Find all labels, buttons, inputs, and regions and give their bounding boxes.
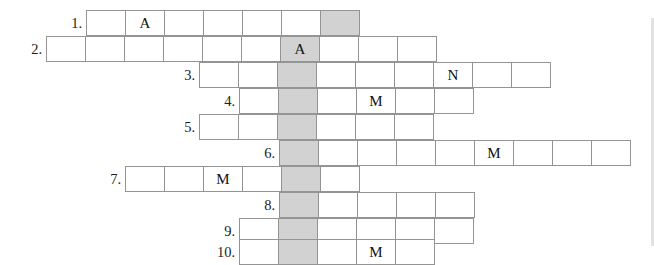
crossword-cell[interactable] — [511, 62, 551, 88]
crossword-cell[interactable] — [434, 218, 474, 244]
crossword-cell[interactable]: N — [433, 62, 473, 88]
clue-number: 1. — [71, 10, 87, 36]
crossword-cell[interactable] — [203, 10, 243, 36]
crossword-puzzle: 1.A2.A3.N4.M5.6.M7.M8.9.10.M — [0, 0, 654, 265]
crossword-cell[interactable] — [164, 166, 204, 192]
crossword-cell[interactable] — [317, 239, 357, 265]
crossword-cell[interactable] — [394, 114, 434, 140]
crossword-cell[interactable] — [435, 192, 475, 218]
crossword-cell[interactable] — [319, 36, 359, 62]
crossword-cell[interactable] — [281, 10, 321, 36]
crossword-cell-shaded[interactable] — [278, 239, 318, 265]
crossword-cell[interactable] — [513, 140, 553, 166]
crossword-cell[interactable] — [199, 62, 239, 88]
crossword-cell[interactable] — [357, 140, 397, 166]
clue-number: 7. — [110, 166, 126, 192]
crossword-row: 1.A — [87, 10, 360, 36]
crossword-cell-shaded[interactable] — [320, 10, 360, 36]
crossword-cell-shaded[interactable] — [281, 166, 321, 192]
crossword-cell-shaded[interactable] — [279, 140, 319, 166]
crossword-cell[interactable] — [317, 88, 357, 114]
clue-number: 5. — [184, 114, 200, 140]
clue-number: 8. — [264, 192, 280, 218]
crossword-cell[interactable] — [241, 36, 281, 62]
crossword-cell[interactable] — [395, 239, 435, 265]
crossword-row: 8. — [280, 192, 475, 218]
crossword-cell[interactable] — [242, 166, 282, 192]
crossword-cell[interactable] — [85, 36, 125, 62]
crossword-cell-shaded[interactable]: A — [280, 36, 320, 62]
crossword-cell[interactable] — [395, 88, 435, 114]
crossword-row: 4.M — [240, 88, 474, 114]
crossword-cell[interactable] — [199, 114, 239, 140]
crossword-cell[interactable] — [163, 36, 203, 62]
clue-number: 4. — [224, 88, 240, 114]
crossword-cell[interactable] — [394, 62, 434, 88]
crossword-cell[interactable] — [355, 114, 395, 140]
crossword-row: 7.M — [126, 166, 360, 192]
crossword-cell[interactable] — [434, 88, 474, 114]
crossword-cell[interactable] — [318, 192, 358, 218]
crossword-cell[interactable] — [239, 239, 279, 265]
crossword-cell[interactable] — [396, 140, 436, 166]
crossword-cell[interactable] — [472, 62, 512, 88]
crossword-row: 3.N — [200, 62, 551, 88]
crossword-cell[interactable] — [318, 140, 358, 166]
crossword-cell-shaded[interactable] — [278, 88, 318, 114]
crossword-cell[interactable] — [239, 88, 279, 114]
crossword-row: 2.A — [47, 36, 437, 62]
crossword-cell[interactable] — [396, 192, 436, 218]
crossword-cell[interactable] — [591, 140, 631, 166]
crossword-cell-shaded[interactable] — [277, 114, 317, 140]
crossword-cell[interactable] — [355, 62, 395, 88]
crossword-cell[interactable] — [86, 10, 126, 36]
crossword-cell[interactable] — [552, 140, 592, 166]
crossword-cell[interactable] — [358, 36, 398, 62]
crossword-cell[interactable] — [125, 166, 165, 192]
crossword-cell[interactable] — [164, 10, 204, 36]
crossword-cell[interactable] — [238, 114, 278, 140]
crossword-cell[interactable]: A — [125, 10, 165, 36]
crossword-cell[interactable] — [238, 62, 278, 88]
crossword-cell[interactable] — [242, 10, 282, 36]
crossword-row: 5. — [200, 114, 434, 140]
clue-number: 2. — [31, 36, 47, 62]
crossword-cell[interactable] — [397, 36, 437, 62]
clue-number: 6. — [264, 140, 280, 166]
crossword-cell[interactable]: M — [356, 239, 396, 265]
crossword-cell[interactable] — [202, 36, 242, 62]
crossword-cell[interactable]: M — [474, 140, 514, 166]
clue-number: 3. — [184, 62, 200, 88]
crossword-cell[interactable]: M — [356, 88, 396, 114]
crossword-row: 10.M — [240, 239, 435, 265]
crossword-cell[interactable] — [316, 62, 356, 88]
crossword-cell[interactable] — [124, 36, 164, 62]
crossword-cell-shaded[interactable] — [279, 192, 319, 218]
crossword-cell[interactable] — [316, 114, 356, 140]
crossword-cell[interactable]: M — [203, 166, 243, 192]
clue-number: 10. — [217, 239, 240, 265]
crossword-cell[interactable] — [320, 166, 360, 192]
crossword-cell[interactable] — [435, 140, 475, 166]
crossword-cell-shaded[interactable] — [277, 62, 317, 88]
crossword-row: 6.M — [280, 140, 631, 166]
crossword-cell[interactable] — [357, 192, 397, 218]
crossword-cell[interactable] — [46, 36, 86, 62]
